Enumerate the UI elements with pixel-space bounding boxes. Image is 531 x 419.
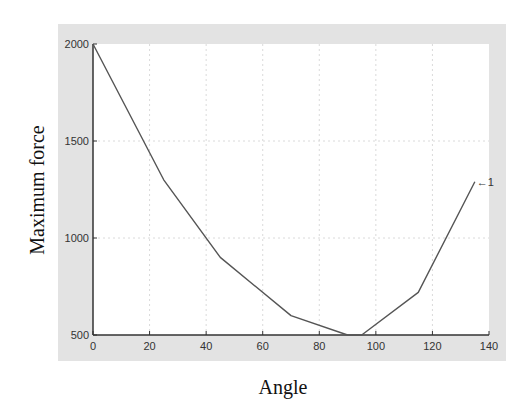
x-tick-label: 20 <box>143 340 155 352</box>
x-tick-label: 0 <box>90 340 96 352</box>
y-tick-label: 1500 <box>65 135 89 147</box>
x-axis-label: Angle <box>259 376 308 399</box>
y-tick-label: 500 <box>71 329 89 341</box>
y-axis-label: Maximum force <box>26 125 49 254</box>
y-axis-ticks: 500100015002000 <box>65 38 97 341</box>
x-tick-label: 60 <box>257 340 269 352</box>
y-tick-label: 1000 <box>65 232 89 244</box>
x-tick-label: 40 <box>200 340 212 352</box>
y-tick-label: 2000 <box>65 38 89 50</box>
x-tick-label: 120 <box>423 340 441 352</box>
plot-area <box>93 44 489 335</box>
x-tick-label: 100 <box>367 340 385 352</box>
line-chart: 020406080100120140 500100015002000 ←1 <box>0 0 531 419</box>
annotations: ←1 <box>477 176 494 188</box>
x-tick-label: 140 <box>480 340 498 352</box>
series-annotation: ←1 <box>477 176 494 188</box>
x-tick-label: 80 <box>313 340 325 352</box>
